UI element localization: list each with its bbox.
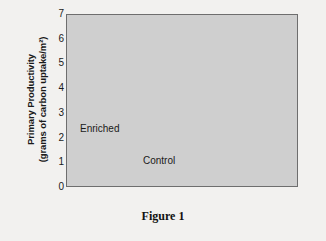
figure-container: Primary Productivity (grams of carbon up… bbox=[0, 0, 326, 241]
series-label-control: Control bbox=[143, 155, 175, 166]
chart-curves bbox=[66, 14, 298, 187]
figure-caption: Figure 1 bbox=[0, 209, 326, 224]
series-label-enriched: Enriched bbox=[80, 123, 119, 134]
